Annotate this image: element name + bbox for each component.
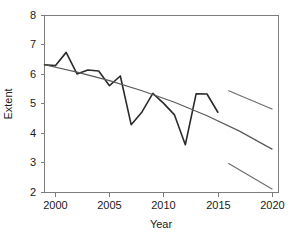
x-tick-label-2015: 2015 (206, 199, 230, 211)
y-tick-label-7: 7 (30, 38, 36, 50)
y-tick-label-6: 6 (30, 68, 36, 80)
series-layer (45, 52, 273, 189)
x-tick-label-2005: 2005 (97, 199, 121, 211)
x-axis-ticks (56, 193, 273, 197)
x-axis-title: Year (150, 218, 173, 230)
observed-extent-line (45, 52, 218, 144)
x-tick-label-2010: 2010 (151, 199, 175, 211)
y-tick-label-4: 4 (30, 127, 36, 139)
x-tick-label-2000: 2000 (43, 199, 67, 211)
y-tick-label-8: 8 (30, 9, 36, 21)
y-axis-ticks (41, 16, 45, 193)
x-tick-label-2020: 2020 (260, 199, 284, 211)
y-tick-label-2: 2 (30, 186, 36, 198)
y-tick-label-3: 3 (30, 156, 36, 168)
y-tick-label-5: 5 (30, 97, 36, 109)
projection-lower-line (229, 164, 272, 189)
chart-figure: 8 7 6 5 4 3 2 2000 2005 2010 2015 2020 Y… (0, 0, 297, 235)
projection-upper-line (229, 91, 272, 109)
plot-frame (45, 16, 279, 193)
y-axis-title: Extent (2, 88, 14, 119)
line-chart-plot: 8 7 6 5 4 3 2 2000 2005 2010 2015 2020 Y… (0, 0, 297, 235)
fitted-trend-line (45, 65, 273, 149)
